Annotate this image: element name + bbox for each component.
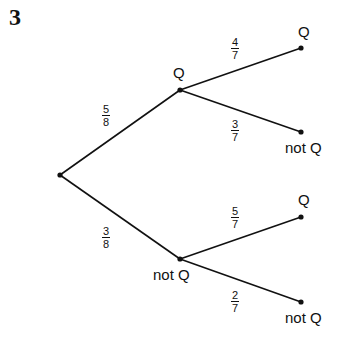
node-label-not-q: not Q (153, 266, 190, 283)
node-label-q: Q (173, 64, 185, 81)
prob-q-q: 4 7 (231, 36, 239, 61)
leaf-label-not-q-not-q: not Q (285, 309, 322, 326)
prob-not-q-q: 5 7 (231, 205, 239, 230)
prob-not-q-not-q: 2 7 (231, 289, 239, 314)
leaf-label-not-q-q: Q (298, 191, 310, 208)
leaf-label-q-q: Q (298, 23, 310, 40)
prob-first-q: 5 8 (102, 103, 110, 128)
prob-q-not-q: 3 7 (231, 118, 239, 143)
leaf-label-q-not-q: not Q (285, 139, 322, 156)
prob-first-not-q: 3 8 (102, 225, 110, 250)
tree-diagram-lines (0, 0, 348, 350)
